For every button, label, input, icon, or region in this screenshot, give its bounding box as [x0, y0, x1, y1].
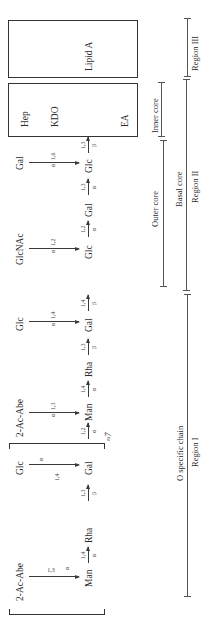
chain-link-4-pos: 1,4 [80, 386, 86, 394]
chain-link-5-anomer: β [91, 346, 97, 349]
branch-link-6: 1,6 [50, 153, 56, 161]
chain-arrow-4 [88, 381, 89, 397]
lps-structure-diagram: ≈7 2-Ac-Abe 1,3 α Glc 1,4 α 2-Ac-Abe 1,3… [0, 0, 207, 627]
core-hep: Hep [20, 111, 30, 127]
branch-sugar-gal: Gal [15, 156, 25, 170]
o-chain-label: O specific chain [175, 426, 185, 481]
branch-anomer-2: α [38, 458, 44, 461]
o-chain-tick-left [184, 596, 191, 597]
chain-link-5-pos: 1,3 [80, 344, 86, 352]
chain-arrow-9 [88, 137, 89, 153]
branch-arrow-6 [29, 162, 79, 163]
chain-link-1-pos: 1,4 [80, 552, 86, 560]
chain-sugar-rha-2: Rha [84, 362, 94, 377]
branch-arrow-5 [29, 248, 79, 249]
repeat-bracket-right [9, 443, 105, 449]
branch-link-2: 1,4 [54, 474, 60, 482]
core-box [8, 83, 138, 137]
basal-core-label: Basal core [174, 171, 184, 207]
branch-sugar-2-ac-abe-2: 2-Ac-Abe [15, 399, 25, 437]
branch-sugar-glc-2: Glc [15, 317, 25, 331]
chain-arrow-5 [88, 339, 89, 355]
o-chain-tick-right [184, 294, 191, 295]
lipid-a-label: Lipid A [84, 42, 94, 71]
branch-link-4: 1,4 [50, 312, 56, 320]
chain-link-4-anomer: α [91, 388, 97, 391]
branch-anomer-6: α [50, 164, 56, 167]
inner-core-span [161, 83, 162, 137]
repeat-bracket-left [9, 609, 105, 615]
region-3-label: Region III [190, 36, 200, 71]
branch-arrow-3 [29, 412, 79, 413]
inner-core-tick-left [158, 136, 165, 137]
outer-core-tick-left [160, 286, 167, 287]
branch-sugar-glc-1: Glc [15, 461, 25, 475]
chain-link-3-pos: 1,2 [80, 428, 86, 436]
chain-sugar-man-2: Man [84, 404, 94, 421]
chain-link-9-anomer: β [91, 144, 97, 147]
chain-sugar-rha-1: Rha [84, 528, 94, 543]
chain-link-9-pos: 1,3 [80, 142, 86, 150]
basal-core-tick-left [183, 290, 190, 291]
chain-link-8-pos: 1,3 [80, 184, 86, 192]
chain-arrow-6 [88, 295, 89, 311]
inner-core-tick-right [158, 82, 165, 83]
chain-arrow-2 [88, 485, 89, 501]
branch-sugar-glcnac: GlcNAc [15, 233, 25, 265]
chain-link-2-anomer: β [91, 492, 97, 495]
chain-link-2-pos: 1,3 [80, 490, 86, 498]
inner-core-label: Inner core [150, 98, 160, 133]
region-2-label: Region II [190, 171, 200, 203]
branch-link-5: 1,2 [50, 239, 56, 247]
branch-sugar-2-ac-abe-1: 2-Ac-Abe [15, 563, 25, 601]
outer-core-tick-right [160, 140, 167, 141]
repeat-count: ≈7 [104, 433, 114, 441]
chain-sugar-man-1: Man [84, 570, 94, 587]
branch-anomer-1: α [64, 567, 70, 570]
chain-sugar-gal-1: Gal [84, 461, 94, 475]
lipid-a-box [8, 20, 138, 78]
chain-arrow-8 [88, 179, 89, 195]
region-3-span [187, 19, 188, 77]
basal-core-tick-right [183, 79, 190, 80]
chain-link-7-anomer: α [91, 228, 97, 231]
branch-arrow-4 [29, 321, 79, 322]
region-3-tick-left [184, 76, 191, 77]
chain-sugar-gal-3: Gal [84, 203, 94, 217]
region-1-label: Region I [190, 437, 200, 467]
chain-link-3-anomer: α [91, 430, 97, 433]
core-kdo: KDO [50, 106, 60, 127]
branch-anomer-4: α [50, 323, 56, 326]
outer-core-label: Outer core [150, 191, 160, 227]
outer-core-span [163, 141, 164, 287]
chain-arrow-1 [88, 547, 89, 563]
region-3-tick-right [184, 18, 191, 19]
branch-link-3: 1,3 [50, 403, 56, 411]
chain-link-1-anomer: α [91, 554, 97, 557]
chain-arrow-3 [88, 423, 89, 439]
chain-link-8-anomer: α [91, 186, 97, 189]
branch-link-1: 1,3 [47, 567, 55, 573]
branch-anomer-5: α [50, 250, 56, 253]
chain-arrow-7 [88, 221, 89, 237]
chain-link-6-pos: 1,4 [80, 300, 86, 308]
chain-sugar-gal-2: Gal [84, 318, 94, 332]
basal-core-span [186, 80, 187, 291]
chain-sugar-glc-1: Glc [84, 245, 94, 259]
chain-link-7-pos: 1,2 [80, 226, 86, 234]
branch-anomer-3: α [50, 414, 56, 417]
chain-link-6-anomer: β [91, 302, 97, 305]
branch-arrow-2 [29, 464, 79, 465]
chain-sugar-glc-2: Glc [84, 159, 94, 173]
o-chain-span [187, 295, 188, 597]
branch-arrow-1 [29, 576, 79, 577]
core-ea: EA [120, 114, 130, 127]
